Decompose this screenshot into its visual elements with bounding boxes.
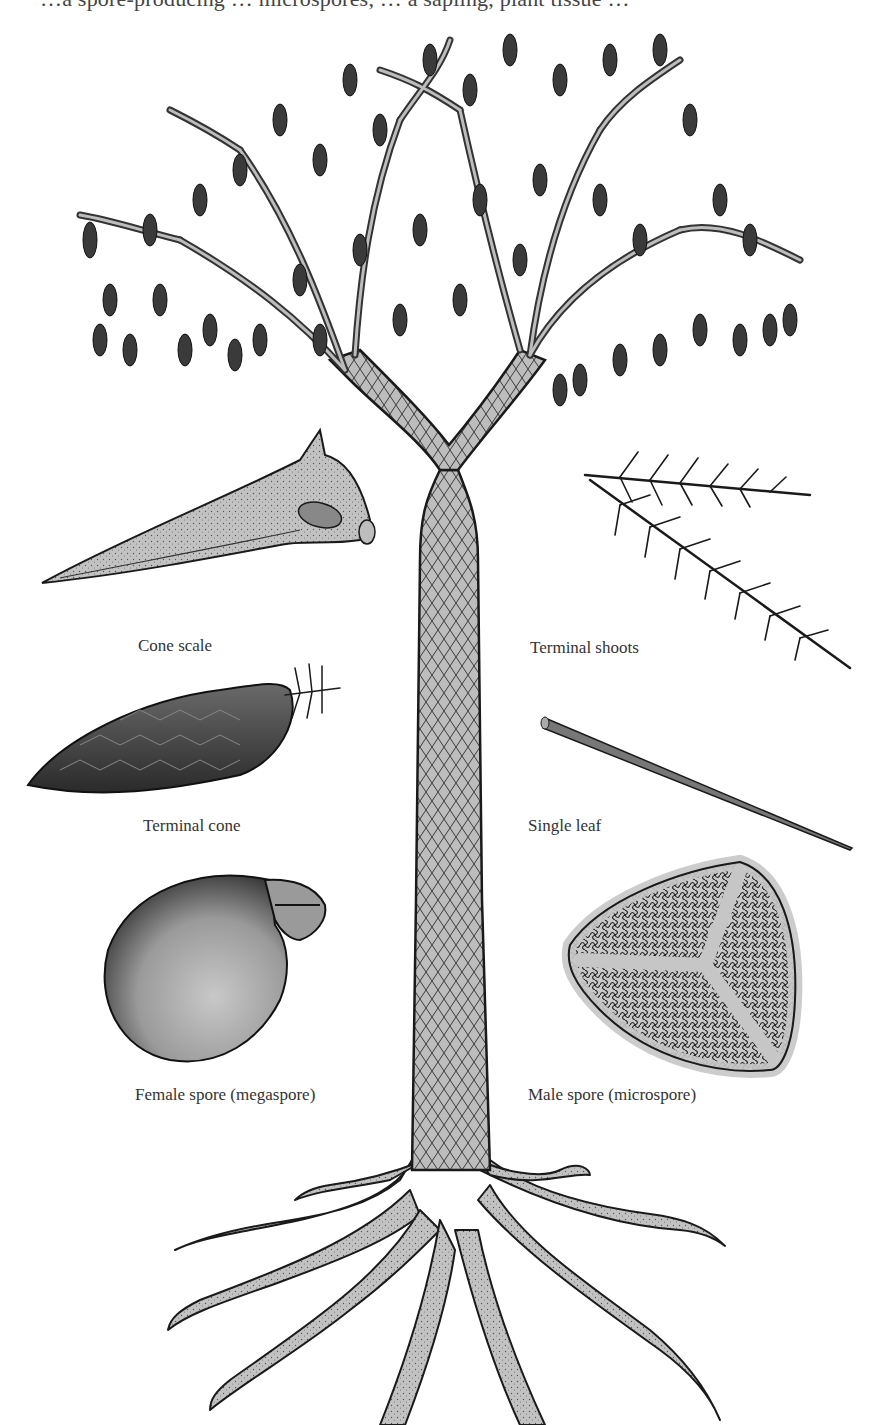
roots [168, 1150, 725, 1425]
microspore-drawing [569, 862, 796, 1071]
crown [80, 40, 800, 370]
crown-cones [83, 34, 797, 406]
label-male-spore: Male spore (microspore) [528, 1085, 696, 1105]
terminal-cone-drawing [28, 664, 340, 792]
label-cone-scale: Cone scale [138, 636, 212, 656]
label-terminal-shoots: Terminal shoots [530, 638, 639, 658]
label-female-spore: Female spore (megaspore) [135, 1085, 315, 1105]
terminal-shoots-drawing [585, 452, 850, 668]
illustration [0, 0, 873, 1425]
label-single-leaf: Single leaf [528, 816, 601, 836]
megaspore-drawing [105, 876, 326, 1062]
trunk [330, 350, 545, 1170]
label-terminal-cone: Terminal cone [143, 816, 240, 836]
cone-scale-drawing [42, 430, 375, 583]
